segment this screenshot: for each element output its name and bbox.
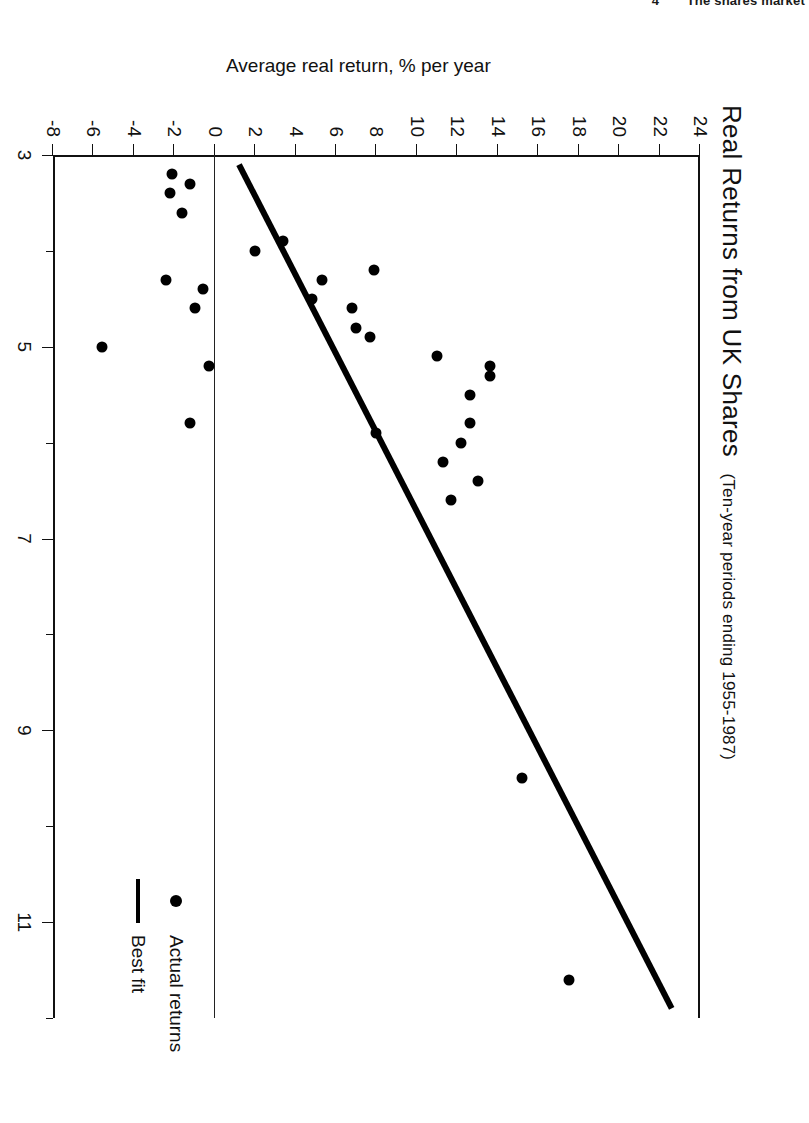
y-tick-label: 12 xyxy=(446,103,468,137)
y-axis-title: Average real return, % per year xyxy=(226,55,491,77)
x-tick-minor xyxy=(46,442,53,443)
y-tick xyxy=(375,144,376,155)
legend-label-actual-returns: Actual returns xyxy=(164,934,186,1051)
zero-reference-line xyxy=(213,155,214,1018)
scatter-point xyxy=(185,417,196,428)
plot-frame-top xyxy=(698,155,700,1018)
y-tick xyxy=(254,144,255,155)
y-tick xyxy=(213,144,214,155)
x-tick-major xyxy=(42,538,53,539)
y-tick xyxy=(294,144,295,155)
scatter-point xyxy=(316,274,327,285)
y-tick-label: 18 xyxy=(567,103,589,137)
scatter-point xyxy=(185,178,196,189)
legend-dot-marker-icon xyxy=(165,878,185,924)
running-head-title: The shares market xyxy=(687,0,805,8)
legend-line-marker-icon xyxy=(127,878,147,924)
chart-legend: Actual returns Best fit xyxy=(118,878,194,1108)
scatter-point xyxy=(464,417,475,428)
scatter-point xyxy=(203,360,214,371)
y-tick-label: 10 xyxy=(405,103,427,137)
legend-label-best-fit: Best fit xyxy=(126,934,148,992)
scatter-point xyxy=(472,475,483,486)
x-tick-label: 5 xyxy=(13,341,35,352)
y-tick xyxy=(577,144,578,155)
y-tick-label: 24 xyxy=(689,103,711,137)
y-tick-label: 4 xyxy=(284,103,306,137)
x-tick-minor xyxy=(46,826,53,827)
scatter-point xyxy=(350,322,361,333)
y-tick xyxy=(699,144,700,155)
scatter-point xyxy=(278,235,289,246)
scatter-point xyxy=(189,302,200,313)
y-tick xyxy=(52,144,53,155)
scatter-point xyxy=(368,264,379,275)
scatter-point xyxy=(371,427,382,438)
legend-item-actual-returns: Actual returns xyxy=(156,878,194,1108)
scatter-point xyxy=(437,456,448,467)
y-tick-label: 6 xyxy=(325,103,347,137)
scatter-point xyxy=(445,494,456,505)
scatter-point xyxy=(455,437,466,448)
y-tick-label: -2 xyxy=(163,103,185,137)
scatter-point xyxy=(484,370,495,381)
x-tick-minor xyxy=(46,634,53,635)
x-tick-major xyxy=(42,346,53,347)
y-tick-label: 16 xyxy=(527,103,549,137)
scatter-point xyxy=(346,302,357,313)
scatter-point xyxy=(306,293,317,304)
page-number: 4 xyxy=(652,0,659,8)
x-tick-minor xyxy=(46,250,53,251)
scatter-point xyxy=(160,274,171,285)
x-tick-label: 9 xyxy=(13,725,35,736)
y-tick xyxy=(335,144,336,155)
y-tick-label: -6 xyxy=(82,103,104,137)
y-tick xyxy=(456,144,457,155)
y-tick-label: 14 xyxy=(486,103,508,137)
legend-item-best-fit: Best fit xyxy=(118,878,156,1108)
y-tick-label: -4 xyxy=(122,103,144,137)
scatter-point xyxy=(176,207,187,218)
plot-area: 357911 242220181614121086420-2-4-6-8 Div… xyxy=(53,155,700,1018)
scatter-point xyxy=(431,350,442,361)
x-tick-label: 3 xyxy=(13,149,35,160)
scatter-point xyxy=(563,974,574,985)
y-tick xyxy=(92,144,93,155)
figure-title-subtitle: (Ten-year periods ending 1955-1987) xyxy=(719,473,738,760)
scatter-point xyxy=(364,331,375,342)
y-tick-label: 20 xyxy=(608,103,630,137)
x-tick-major xyxy=(42,730,53,731)
x-tick-label: 7 xyxy=(13,533,35,544)
scatter-point xyxy=(96,341,107,352)
y-tick xyxy=(658,144,659,155)
y-tick-label: 2 xyxy=(244,103,266,137)
y-tick xyxy=(618,144,619,155)
figure-title-main: Real Returns from UK Shares xyxy=(717,105,747,457)
y-tick xyxy=(173,144,174,155)
y-tick xyxy=(132,144,133,155)
x-tick-major xyxy=(42,922,53,923)
x-tick-minor xyxy=(46,1018,53,1019)
x-tick-major xyxy=(42,155,53,156)
page-running-header: 4 The shares market xyxy=(0,0,809,14)
figure-plate: Real Returns from UK Shares (Ten-year pe… xyxy=(55,47,755,1077)
scatter-point xyxy=(197,283,208,294)
x-axis-line xyxy=(53,155,55,1018)
scatter-point xyxy=(164,187,175,198)
y-tick-label: 0 xyxy=(203,103,225,137)
scatter-point xyxy=(516,772,527,783)
y-tick xyxy=(537,144,538,155)
y-tick xyxy=(496,144,497,155)
y-tick-label: 8 xyxy=(365,103,387,137)
scatter-point xyxy=(464,389,475,400)
scatter-point xyxy=(249,245,260,256)
scatter-point xyxy=(166,168,177,179)
figure-title: Real Returns from UK Shares (Ten-year pe… xyxy=(716,105,747,760)
y-tick-label: 22 xyxy=(648,103,670,137)
best-fit-line-stroke xyxy=(239,164,672,1008)
x-tick-label: 11 xyxy=(13,912,35,932)
y-tick-label: -8 xyxy=(42,103,64,137)
y-tick xyxy=(415,144,416,155)
